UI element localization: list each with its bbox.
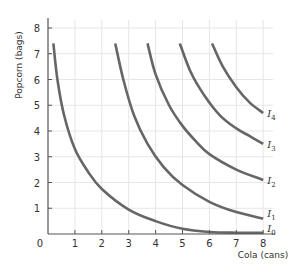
y-tick-label: 8 — [34, 23, 40, 34]
y-tick-label: 6 — [34, 75, 40, 86]
y-tick-label: 2 — [34, 178, 40, 189]
x-tick-label: 2 — [99, 238, 105, 249]
x-tick-label: 0 — [37, 238, 43, 249]
curve-label-i0: I0 — [266, 223, 275, 237]
x-tick-label: 1 — [72, 238, 78, 249]
indifference-curves — [53, 43, 263, 232]
y-axis-ticks: 12345678 — [34, 23, 52, 214]
y-tick-label: 1 — [34, 203, 40, 214]
x-tick-label: 4 — [152, 238, 158, 249]
x-tick-label: 7 — [233, 238, 239, 249]
x-tick-label: 5 — [179, 238, 185, 249]
x-tick-label: 3 — [126, 238, 132, 249]
x-tick-label: 8 — [260, 238, 266, 249]
curve-i0 — [53, 43, 263, 232]
chart-svg: 012345678 12345678 Cola (cans) Popcorn (… — [0, 0, 300, 267]
curve-i3 — [180, 43, 263, 143]
axes — [48, 18, 275, 234]
x-axis-title: Cola (cans) — [238, 250, 289, 260]
curve-label-i4: I4 — [266, 108, 276, 122]
curve-labels: I0I1I2I3I4 — [266, 108, 276, 237]
curve-label-i2: I2 — [266, 175, 275, 189]
y-tick-label: 7 — [34, 49, 40, 60]
curve-label-i1: I1 — [266, 208, 275, 222]
curve-label-i3: I3 — [266, 139, 275, 153]
x-tick-label: 6 — [206, 238, 212, 249]
grid-lines — [48, 20, 273, 234]
y-tick-label: 3 — [34, 152, 40, 163]
curve-i2 — [148, 43, 264, 179]
y-tick-label: 4 — [34, 126, 40, 137]
y-tick-label: 5 — [34, 100, 40, 111]
y-axis-title: Popcorn (bags) — [14, 31, 24, 99]
